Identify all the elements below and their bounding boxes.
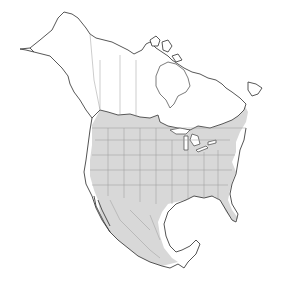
newfoundland	[248, 82, 262, 96]
north-america-map	[0, 0, 293, 293]
range-map	[0, 0, 293, 293]
arctic-island	[162, 40, 172, 52]
lake-michigan	[184, 136, 188, 150]
arctic-island	[150, 36, 160, 46]
canada-alaska-landmass	[30, 12, 246, 130]
